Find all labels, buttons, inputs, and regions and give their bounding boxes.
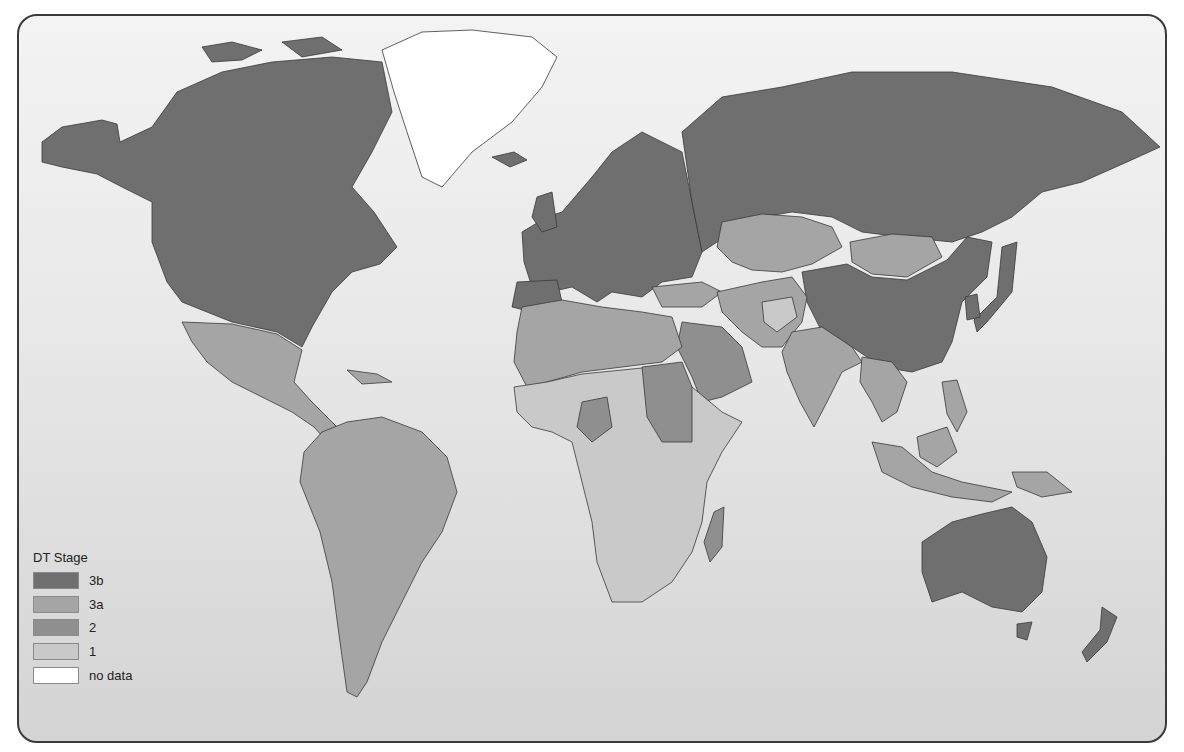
region-mexico-central-america	[182, 322, 352, 447]
region-north-america	[42, 57, 397, 347]
legend-swatch-3b	[33, 572, 79, 589]
legend-item-no-data: no data	[33, 663, 173, 687]
region-australia	[922, 507, 1047, 612]
legend-swatch-3a	[33, 596, 79, 613]
legend-label: 1	[89, 644, 96, 659]
region-new-guinea	[1012, 472, 1072, 497]
legend-label: 2	[89, 620, 96, 635]
legend-label: 3b	[89, 573, 103, 588]
legend-swatch-2	[33, 619, 79, 636]
legend: DT Stage 3b 3a 2 1 no data	[33, 549, 173, 687]
region-new-zealand	[1082, 607, 1117, 662]
legend-label: no data	[89, 668, 132, 683]
legend-swatch-no-data	[33, 667, 79, 684]
region-borneo	[917, 427, 957, 467]
region-korea	[965, 294, 980, 320]
region-madagascar	[704, 507, 724, 562]
legend-title: DT Stage	[33, 549, 173, 569]
legend-label: 3a	[89, 597, 103, 612]
legend-item-1: 1	[33, 640, 173, 664]
region-philippines	[942, 380, 967, 432]
legend-item-3a: 3a	[33, 593, 173, 617]
legend-item-2: 2	[33, 616, 173, 640]
region-sub-saharan-africa	[514, 367, 742, 602]
region-caribbean	[347, 370, 392, 384]
region-kazakhstan	[717, 214, 842, 272]
region-greenland	[382, 30, 557, 187]
region-tasmania	[1017, 622, 1032, 640]
map-frame: DT Stage 3b 3a 2 1 no data	[17, 14, 1167, 743]
region-iceland	[492, 152, 527, 167]
world-map	[19, 16, 1167, 743]
legend-item-3b: 3b	[33, 569, 173, 593]
region-turkey	[652, 282, 722, 307]
region-south-america	[300, 417, 457, 697]
legend-swatch-1	[33, 643, 79, 660]
